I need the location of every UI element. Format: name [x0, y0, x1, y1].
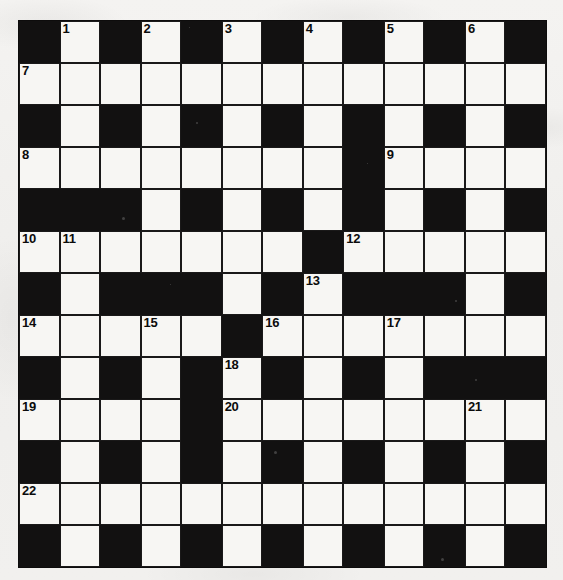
- crossword-light-cell[interactable]: 13: [303, 273, 344, 315]
- crossword-light-cell[interactable]: [222, 441, 263, 483]
- crossword-light-cell[interactable]: [465, 525, 506, 567]
- crossword-light-cell[interactable]: [60, 105, 101, 147]
- crossword-light-cell[interactable]: [424, 483, 465, 525]
- crossword-light-cell[interactable]: [505, 315, 546, 357]
- crossword-light-cell[interactable]: 20: [222, 399, 263, 441]
- crossword-light-cell[interactable]: [343, 315, 384, 357]
- crossword-light-cell[interactable]: [141, 399, 182, 441]
- crossword-light-cell[interactable]: [465, 147, 506, 189]
- crossword-light-cell[interactable]: [60, 525, 101, 567]
- crossword-light-cell[interactable]: [465, 63, 506, 105]
- crossword-light-cell[interactable]: [181, 315, 222, 357]
- crossword-light-cell[interactable]: [303, 147, 344, 189]
- crossword-light-cell[interactable]: [505, 231, 546, 273]
- crossword-light-cell[interactable]: [465, 105, 506, 147]
- crossword-light-cell[interactable]: [343, 399, 384, 441]
- crossword-light-cell[interactable]: [384, 399, 425, 441]
- crossword-light-cell[interactable]: [303, 63, 344, 105]
- crossword-light-cell[interactable]: 1: [60, 21, 101, 63]
- crossword-light-cell[interactable]: [303, 357, 344, 399]
- crossword-light-cell[interactable]: [222, 231, 263, 273]
- crossword-light-cell[interactable]: [303, 525, 344, 567]
- crossword-light-cell[interactable]: [384, 441, 425, 483]
- crossword-light-cell[interactable]: [343, 483, 384, 525]
- crossword-light-cell[interactable]: [505, 147, 546, 189]
- crossword-light-cell[interactable]: [303, 189, 344, 231]
- crossword-light-cell[interactable]: [505, 483, 546, 525]
- crossword-light-cell[interactable]: [181, 147, 222, 189]
- crossword-light-cell[interactable]: [100, 147, 141, 189]
- crossword-light-cell[interactable]: [141, 483, 182, 525]
- crossword-light-cell[interactable]: [262, 231, 303, 273]
- crossword-light-cell[interactable]: [60, 315, 101, 357]
- crossword-light-cell[interactable]: 4: [303, 21, 344, 63]
- crossword-light-cell[interactable]: 2: [141, 21, 182, 63]
- crossword-light-cell[interactable]: [141, 357, 182, 399]
- crossword-light-cell[interactable]: [465, 189, 506, 231]
- crossword-light-cell[interactable]: [141, 63, 182, 105]
- crossword-light-cell[interactable]: [384, 105, 425, 147]
- crossword-light-cell[interactable]: [141, 147, 182, 189]
- crossword-light-cell[interactable]: [222, 147, 263, 189]
- crossword-light-cell[interactable]: [303, 441, 344, 483]
- crossword-light-cell[interactable]: 22: [19, 483, 60, 525]
- crossword-light-cell[interactable]: [262, 399, 303, 441]
- crossword-light-cell[interactable]: [303, 315, 344, 357]
- crossword-light-cell[interactable]: [100, 315, 141, 357]
- crossword-light-cell[interactable]: [384, 189, 425, 231]
- crossword-light-cell[interactable]: [222, 105, 263, 147]
- crossword-light-cell[interactable]: 14: [19, 315, 60, 357]
- crossword-light-cell[interactable]: 10: [19, 231, 60, 273]
- crossword-light-cell[interactable]: 18: [222, 357, 263, 399]
- crossword-light-cell[interactable]: 6: [465, 21, 506, 63]
- crossword-light-cell[interactable]: [181, 483, 222, 525]
- crossword-light-cell[interactable]: [465, 483, 506, 525]
- crossword-light-cell[interactable]: [141, 105, 182, 147]
- crossword-light-cell[interactable]: [505, 63, 546, 105]
- crossword-light-cell[interactable]: 5: [384, 21, 425, 63]
- crossword-light-cell[interactable]: [424, 63, 465, 105]
- crossword-light-cell[interactable]: [424, 315, 465, 357]
- crossword-light-cell[interactable]: [222, 189, 263, 231]
- crossword-light-cell[interactable]: [384, 357, 425, 399]
- crossword-light-cell[interactable]: [60, 441, 101, 483]
- crossword-grid[interactable]: 12345678910111213141516171819202122: [18, 20, 547, 568]
- crossword-light-cell[interactable]: 21: [465, 399, 506, 441]
- crossword-light-cell[interactable]: 3: [222, 21, 263, 63]
- crossword-light-cell[interactable]: [60, 357, 101, 399]
- crossword-light-cell[interactable]: [384, 63, 425, 105]
- crossword-light-cell[interactable]: 19: [19, 399, 60, 441]
- crossword-light-cell[interactable]: 7: [19, 63, 60, 105]
- crossword-light-cell[interactable]: [60, 147, 101, 189]
- crossword-light-cell[interactable]: [424, 399, 465, 441]
- crossword-light-cell[interactable]: 12: [343, 231, 384, 273]
- crossword-light-cell[interactable]: 16: [262, 315, 303, 357]
- crossword-light-cell[interactable]: [262, 147, 303, 189]
- crossword-light-cell[interactable]: [100, 63, 141, 105]
- crossword-light-cell[interactable]: [505, 399, 546, 441]
- crossword-light-cell[interactable]: [60, 483, 101, 525]
- crossword-light-cell[interactable]: [465, 231, 506, 273]
- crossword-light-cell[interactable]: [262, 483, 303, 525]
- crossword-light-cell[interactable]: [181, 63, 222, 105]
- crossword-light-cell[interactable]: [60, 273, 101, 315]
- crossword-light-cell[interactable]: [465, 315, 506, 357]
- crossword-light-cell[interactable]: 15: [141, 315, 182, 357]
- crossword-light-cell[interactable]: [424, 147, 465, 189]
- crossword-light-cell[interactable]: [60, 63, 101, 105]
- crossword-light-cell[interactable]: 9: [384, 147, 425, 189]
- crossword-light-cell[interactable]: [222, 63, 263, 105]
- crossword-light-cell[interactable]: 8: [19, 147, 60, 189]
- crossword-light-cell[interactable]: [262, 63, 303, 105]
- crossword-light-cell[interactable]: 11: [60, 231, 101, 273]
- crossword-light-cell[interactable]: [424, 231, 465, 273]
- crossword-light-cell[interactable]: [141, 525, 182, 567]
- crossword-light-cell[interactable]: [465, 273, 506, 315]
- crossword-light-cell[interactable]: [60, 399, 101, 441]
- crossword-light-cell[interactable]: [303, 105, 344, 147]
- crossword-light-cell[interactable]: [222, 483, 263, 525]
- crossword-light-cell[interactable]: [141, 189, 182, 231]
- crossword-light-cell[interactable]: [141, 441, 182, 483]
- crossword-light-cell[interactable]: [100, 231, 141, 273]
- crossword-light-cell[interactable]: [303, 483, 344, 525]
